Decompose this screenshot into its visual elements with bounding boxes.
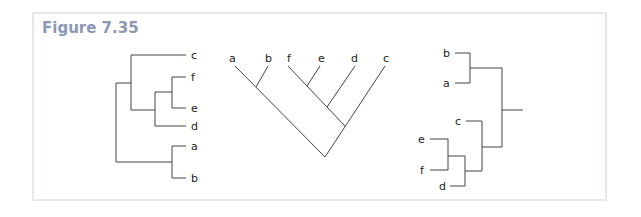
- leaf-label: f: [287, 52, 292, 65]
- leaf-label: d: [191, 120, 198, 133]
- leaf-label: d: [351, 52, 358, 65]
- leaf-label: a: [229, 52, 236, 65]
- leaf-label: a: [191, 140, 198, 153]
- tree-1: c f e d a b: [116, 49, 198, 185]
- leaf-label: b: [191, 172, 198, 185]
- phylogenetic-trees: c f e d a b a b f e d c: [0, 0, 641, 217]
- leaf-label: e: [418, 133, 425, 146]
- leaf-label: e: [318, 52, 325, 65]
- leaf-label: a: [443, 77, 450, 90]
- leaf-label: d: [439, 180, 446, 193]
- leaf-label: e: [191, 102, 198, 115]
- tree-2: a b f e d c: [229, 52, 389, 157]
- leaf-label: b: [265, 52, 272, 65]
- leaf-label: c: [383, 52, 389, 65]
- leaf-label: c: [455, 115, 461, 128]
- leaf-label: c: [191, 49, 197, 62]
- tree-3: b a c e f d: [418, 47, 523, 193]
- leaf-label: b: [443, 47, 450, 60]
- leaf-label: f: [420, 164, 425, 177]
- leaf-label: f: [191, 71, 196, 84]
